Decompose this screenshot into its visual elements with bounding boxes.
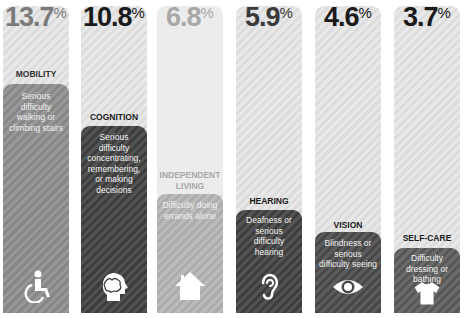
category-label: HEARING xyxy=(236,196,302,207)
bar-fill: Serious difficulty concentrating, rememb… xyxy=(81,126,147,313)
shirt-icon xyxy=(413,279,441,307)
wheelchair-icon xyxy=(19,269,53,303)
category-label: COGNITION xyxy=(81,112,147,123)
bar-mobility: 13.7% MOBILITY Serious difficulty walkin… xyxy=(3,6,69,313)
value-mobility: 13.7% xyxy=(3,6,69,33)
category-description: Difficulty doing errands alone xyxy=(161,200,219,221)
value-vision: 4.6% xyxy=(315,6,381,33)
value-cognition: 10.8% xyxy=(81,6,147,33)
category-description: Blindness or serious difficulty seeing xyxy=(319,238,377,270)
bar-cognition: 10.8% COGNITION Serious difficulty conce… xyxy=(81,6,147,313)
category-label: INDEPENDENT LIVING xyxy=(159,170,221,192)
bar-self-care: 3.7% SELF-CARE Difficulty dressing or ba… xyxy=(394,6,460,313)
category-description: Serious difficulty concentrating, rememb… xyxy=(85,132,143,195)
bar-independent-living: 6.8% INDEPENDENT LIVING Difficulty doing… xyxy=(157,6,223,313)
bar-fill: Serious difficulty walking or climbing s… xyxy=(3,84,69,313)
value-independent-living: 6.8% xyxy=(157,6,223,33)
category-label: MOBILITY xyxy=(3,69,69,80)
bar-fill: Difficulty dressing or bathing xyxy=(394,248,460,313)
brain-head-icon xyxy=(97,269,131,303)
category-description: Serious difficulty walking or climbing s… xyxy=(7,91,65,133)
eye-icon xyxy=(331,269,365,303)
category-label: VISION xyxy=(315,220,381,231)
category-label: SELF-CARE xyxy=(394,233,460,244)
value-self-care: 3.7% xyxy=(394,6,460,33)
bar-vision: 4.6% VISION Blindness or serious difficu… xyxy=(315,6,381,313)
bar-fill: Difficulty doing errands alone xyxy=(157,194,223,313)
house-icon xyxy=(173,269,207,303)
bar-hearing: 5.9% HEARING Deafness or serious difficu… xyxy=(236,6,302,313)
bar-fill: Blindness or serious difficulty seeing xyxy=(315,232,381,313)
bar-fill: Deafness or serious difficulty hearing xyxy=(236,210,302,313)
value-hearing: 5.9% xyxy=(236,6,302,33)
ear-icon xyxy=(252,269,286,303)
category-description: Deafness or serious difficulty hearing xyxy=(240,215,298,257)
